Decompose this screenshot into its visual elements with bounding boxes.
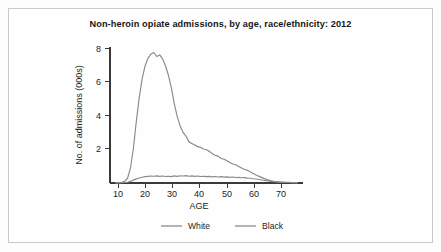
series-line-black [116, 176, 297, 183]
y-tick-label: 6 [96, 77, 101, 87]
chart-legend: White Black [161, 221, 284, 231]
figure-page: Non-heroin opiate admissions, by age, ra… [0, 0, 441, 252]
x-axis-title: AGE [189, 201, 208, 211]
y-tick-label: 2 [96, 144, 101, 154]
y-axis-tick-labels: 8 6 4 2 [96, 44, 101, 155]
legend-label-black: Black [262, 221, 284, 231]
line-chart: 8 6 4 2 10 20 30 40 50 60 70 AGE No. of … [0, 0, 441, 252]
x-axis-ticks [118, 183, 281, 188]
y-axis-title: No. of admissions (000s) [74, 65, 84, 165]
x-tick-label: 50 [222, 189, 232, 199]
x-tick-label: 20 [140, 189, 150, 199]
legend-label-white: White [188, 221, 210, 231]
x-tick-label: 30 [167, 189, 177, 199]
series-line-white [116, 53, 297, 183]
x-tick-label: 60 [249, 189, 259, 199]
y-tick-label: 4 [96, 111, 101, 121]
y-axis-ticks [105, 48, 110, 149]
x-tick-label: 40 [194, 189, 204, 199]
x-tick-label: 10 [113, 189, 123, 199]
x-axis-tick-labels: 10 20 30 40 50 60 70 [113, 189, 286, 199]
y-tick-label: 8 [96, 44, 101, 54]
x-tick-label: 70 [276, 189, 286, 199]
